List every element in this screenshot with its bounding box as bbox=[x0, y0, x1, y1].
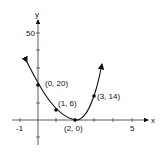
point-2-0 bbox=[73, 118, 77, 122]
point-1-6 bbox=[54, 108, 58, 112]
x-tick-label-5: 5 bbox=[130, 124, 135, 133]
point-label-1-6: (1, 6) bbox=[58, 99, 77, 108]
point-3-14 bbox=[92, 94, 96, 98]
y-tick-label-50: 50 bbox=[26, 29, 35, 38]
point-label-3-14: (3, 14) bbox=[97, 92, 120, 101]
point-0-20 bbox=[36, 83, 40, 87]
x-axis-label: x bbox=[151, 116, 155, 125]
point-label-2-0: (2, 0) bbox=[64, 124, 83, 133]
parabola-graph: x y -1 5 50 (0, 20) (1, 6) (2, 0) (3, 14… bbox=[0, 0, 166, 152]
x-tick-label-neg1: -1 bbox=[16, 124, 24, 133]
y-axis-label: y bbox=[35, 10, 39, 19]
point-label-0-20: (0, 20) bbox=[45, 79, 68, 88]
